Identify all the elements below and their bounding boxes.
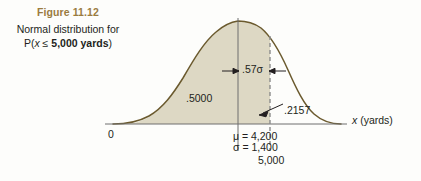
right-area-probability-label: .2157 [284,104,310,116]
standard-deviation-value-label: σ = 1,400 [233,141,278,153]
left-area-probability-label: .5000 [186,92,212,104]
x-value-tick-label: 5,000 [258,154,284,166]
origin-tick-label: 0 [108,128,114,140]
sigma-distance-label: .57σ [242,63,263,75]
x-axis-label: x (yards) [352,114,393,126]
x-axis-label-units: (yards) [357,114,393,126]
normal-curve-graphic [0,0,421,181]
figure-normal-distribution: Figure 11.12 Normal distribution for P(x… [0,0,421,181]
plot-area: .5000 .2157 .57σ 0 μ = 4,200 σ = 1,400 5… [0,0,421,181]
